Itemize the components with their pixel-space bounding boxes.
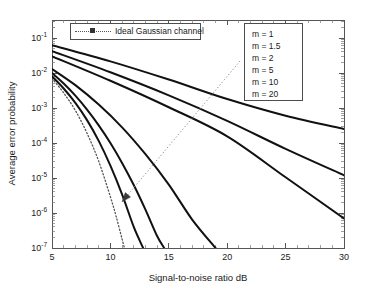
y-tick-label: 10-1 [31,31,47,43]
y-tick-label: 10-4 [31,136,47,148]
x-axis-title: Signal-to-noise ratio dB [52,272,344,283]
y-tick-label: 10-7 [31,241,47,253]
x-tick-label: 10 [105,252,115,262]
legend-ideal-label: Ideal Gaussian channel [115,27,204,36]
legend-line-sample-icon [75,27,111,36]
chart-figure: 51015202530 10-110-210-310-410-510-610-7… [0,0,368,297]
plot-canvas: 51015202530 10-110-210-310-410-510-610-7 [0,0,368,297]
y-tick-label: 10-3 [31,101,47,113]
square-marker-icon [90,28,95,33]
y-tick-label: 10-6 [31,206,47,218]
legend-m-entry: m = 1 [252,28,302,40]
y-axis-title: Average error probability [6,59,17,209]
legend-m-entry: m = 1.5 [252,40,302,52]
x-tick-label: 30 [339,252,349,262]
x-tick-label: 25 [281,252,291,262]
y-axis-title-wrap: Average error probability [0,0,18,297]
legend-m-entry: m = 20 [252,88,302,100]
y-tick-label: 10-5 [31,171,47,183]
x-tick-label: 5 [49,252,54,262]
x-tick-label: 20 [222,252,232,262]
legend-m-entry: m = 5 [252,64,302,76]
y-tick-label: 10-2 [31,66,47,78]
legend-m-entry: m = 10 [252,76,302,88]
x-tick-label: 15 [164,252,174,262]
legend-m-entry: m = 2 [252,52,302,64]
legend-m-values: m = 1 m = 1.5 m = 2 m = 5 m = 10 m = 20 [244,23,303,101]
legend-ideal-gaussian: Ideal Gaussian channel [70,23,201,40]
